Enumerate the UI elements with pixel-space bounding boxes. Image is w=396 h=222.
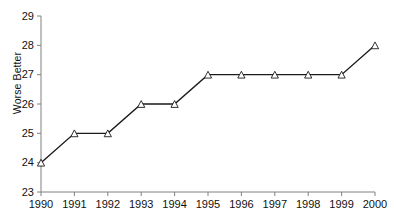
x-tick-label: 2000 bbox=[355, 199, 395, 210]
line-chart: Worse Better 23242526272829 199019911992… bbox=[0, 0, 396, 222]
x-axis-tick-labels: 1990199119921993199419951996199719981999… bbox=[0, 0, 396, 222]
